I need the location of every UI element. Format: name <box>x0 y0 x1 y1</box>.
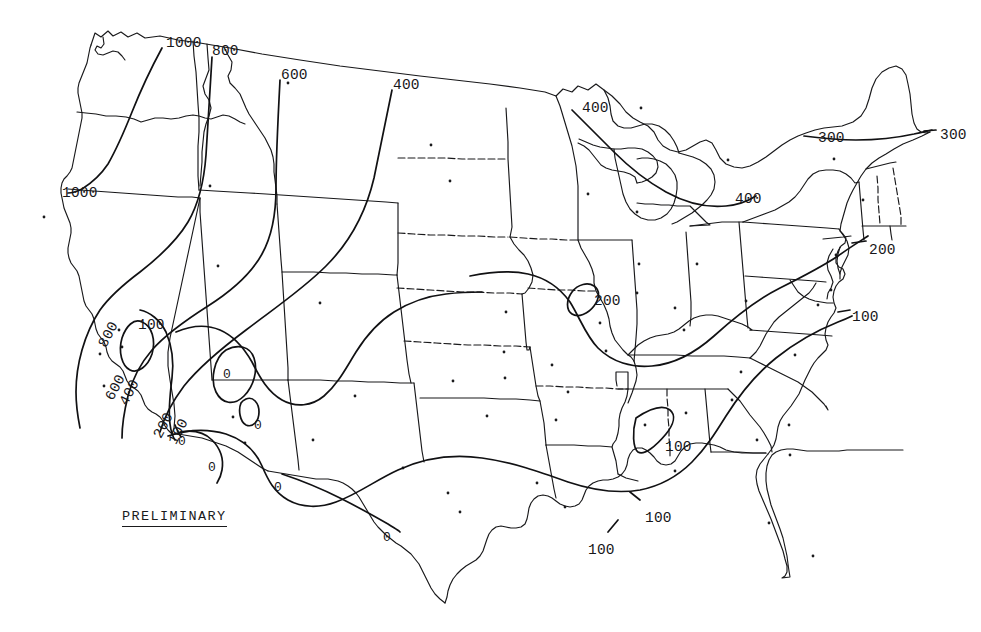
wyoming-east-border <box>397 203 398 275</box>
station-dot <box>745 300 748 303</box>
potomac-border <box>790 280 833 303</box>
station-dot <box>43 216 46 219</box>
vermont-newhampshire-border <box>877 176 880 224</box>
station-dot <box>312 439 315 442</box>
station-dot <box>817 304 820 307</box>
contour-label-400: 400 <box>393 78 420 93</box>
station-dot <box>587 193 590 196</box>
contour-label-100: 100 <box>645 511 672 526</box>
pennsylvania-newyork-border <box>743 222 839 229</box>
lake-huron-erie-shore <box>672 153 743 226</box>
washington-oregon-border <box>77 112 245 124</box>
station-dot <box>674 307 677 310</box>
arizona-newmexico-border <box>288 380 299 470</box>
contour-label-600: 600 <box>281 68 308 83</box>
contour-100-leader-east <box>838 310 850 312</box>
station-dot <box>209 185 212 188</box>
texas-east-border <box>546 445 556 498</box>
missouri-arkansas-border <box>536 386 628 389</box>
louisiana-mississippi-border <box>618 474 638 481</box>
station-dot <box>696 263 699 266</box>
contour-label-800: 800 <box>212 44 239 59</box>
idaho-montana-border <box>224 47 277 204</box>
station-dot <box>768 522 771 525</box>
station-dot <box>504 377 507 380</box>
station-dot <box>564 506 567 509</box>
station-dot <box>99 353 102 356</box>
lake-michigan-west-shore <box>614 149 677 220</box>
contour-label-100: 100 <box>665 440 692 455</box>
contour-400-midwest <box>572 110 756 206</box>
contour-300-leader-east <box>924 130 936 131</box>
station-dot <box>794 354 797 357</box>
arkansas-louisiana-border <box>546 445 612 447</box>
nevada-california-border <box>168 198 200 434</box>
indiana-illinois-border <box>632 240 637 361</box>
contour-0-nevada-closed <box>213 347 255 403</box>
contour-lines <box>68 48 936 532</box>
preliminary-stamp: PRELIMINARY <box>122 509 227 527</box>
gulf-coast <box>445 443 766 603</box>
contour-100-leader-gulf2 <box>608 520 618 532</box>
indiana-ohio-border <box>686 232 691 326</box>
station-dot <box>536 482 539 485</box>
contour-map-page: 1000800600400400300300100040020020010010… <box>0 0 981 632</box>
contour-100-leader-gulf <box>630 492 640 500</box>
station-dot <box>555 419 558 422</box>
contour-label-300: 300 <box>818 131 845 146</box>
contour-label-0: 0 <box>208 461 216 474</box>
station-dot <box>103 385 106 388</box>
station-dot <box>731 399 734 402</box>
station-dot <box>636 211 639 214</box>
cape-cod-long-island <box>823 162 896 239</box>
station-dot <box>452 380 455 383</box>
station-dot <box>740 371 743 374</box>
station-dot <box>727 159 730 162</box>
kentucky-tennessee-border <box>628 355 750 358</box>
station-dot <box>319 302 322 305</box>
station-dot <box>636 292 639 295</box>
missouri-illinois-border <box>628 361 637 403</box>
michigan-indiana-ohio-border <box>637 203 710 226</box>
station-dot <box>833 158 836 161</box>
north-south-dakota-border <box>398 158 506 159</box>
kansas-oklahoma-border <box>404 341 530 347</box>
wyoming-south-border <box>277 204 397 275</box>
station-dot <box>354 395 357 398</box>
pennsylvania-maryland-border <box>745 276 826 282</box>
station-dot <box>674 470 677 473</box>
minnesota-wisconsin-border <box>556 96 578 240</box>
georgia-southcarolina-border <box>728 389 772 452</box>
station-dot <box>486 415 489 418</box>
oklahoma-arkansas-border <box>530 347 540 401</box>
station-dot <box>503 351 506 354</box>
colorado-south-border <box>288 380 414 383</box>
contour-label-100: 100 <box>852 310 879 325</box>
newhampshire-maine-border <box>893 168 901 226</box>
contour-400-west <box>160 90 392 432</box>
station-dot <box>217 265 220 268</box>
contour-label-1000: 1000 <box>62 186 98 201</box>
contour-label-1000: 1000 <box>166 36 202 51</box>
contour-label-400: 400 <box>582 101 609 116</box>
wisconsin-michigan-border <box>578 143 637 183</box>
station-dot <box>685 412 688 415</box>
station-dot <box>567 391 570 394</box>
contour-600 <box>122 80 280 438</box>
station-dot <box>638 263 641 266</box>
contour-0-south-arc <box>180 431 223 483</box>
contour-800 <box>76 57 212 428</box>
contour-label-300: 300 <box>940 128 967 143</box>
station-dot <box>447 492 450 495</box>
station-dot <box>551 364 554 367</box>
iowa-missouri-border <box>528 288 596 291</box>
colorado-east-border <box>397 275 411 383</box>
minnesota-iowa-border <box>510 237 578 240</box>
station-dot <box>232 416 235 419</box>
kansas-missouri-border <box>522 294 530 350</box>
station-dot <box>599 322 602 325</box>
dakotas-minnesota-border <box>506 108 512 237</box>
station-dots <box>43 82 865 558</box>
contour-label-0: 0 <box>178 435 186 448</box>
station-dot <box>640 107 643 110</box>
